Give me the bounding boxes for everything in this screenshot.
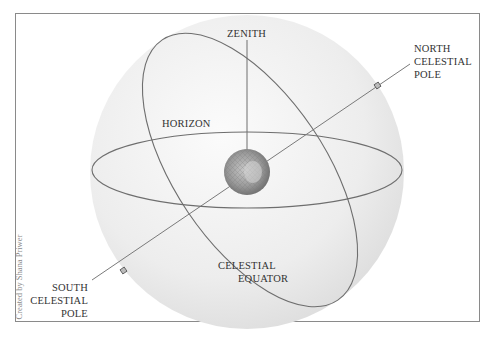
celestial-equator-label: CELESTIAL EQUATOR — [218, 259, 288, 285]
zenith-label: ZENITH — [227, 27, 266, 40]
horizon-label: HORIZON — [162, 117, 211, 130]
north-celestial-pole-label: NORTH CELESTIAL POLE — [414, 42, 472, 81]
south-celestial-pole-label: SOUTH CELESTIAL POLE — [28, 281, 88, 320]
image-credit: Created by Shana Priwer — [14, 232, 24, 322]
